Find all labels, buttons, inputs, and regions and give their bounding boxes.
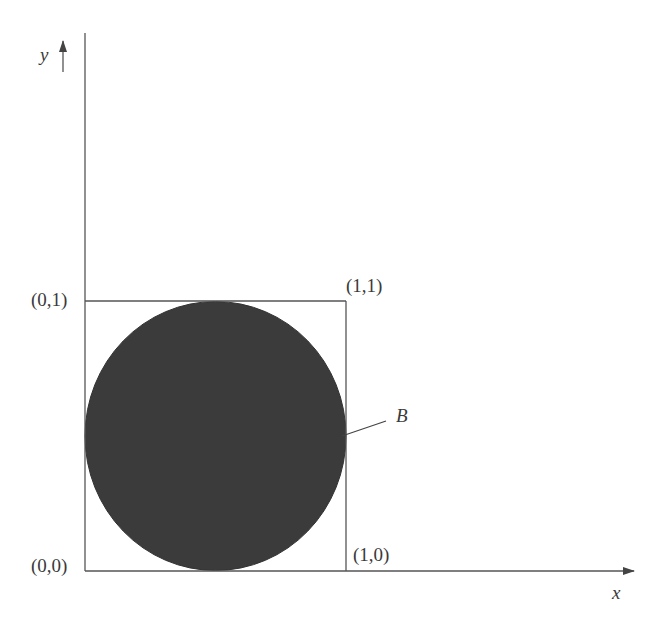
point-label-1-0: (1,0) [353,545,389,564]
diagram-canvas [0,0,665,622]
y-axis-label: y [40,45,48,64]
point-label-0-1: (0,1) [31,290,67,309]
region-b-leader-line [342,421,386,436]
point-label-1-1: (1,1) [346,276,382,295]
x-axis-label: x [612,583,620,602]
region-b-label: B [396,406,408,425]
region-b-disk [85,302,346,571]
point-label-0-0: (0,0) [31,556,67,575]
